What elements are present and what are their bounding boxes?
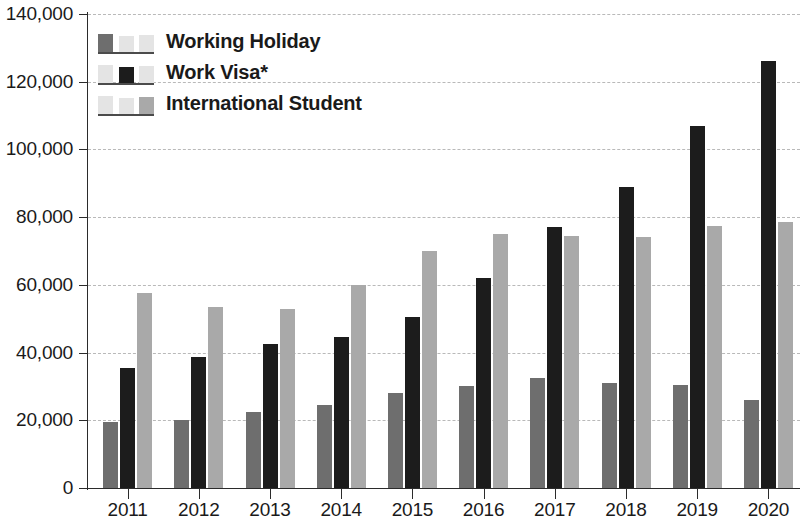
bar — [673, 385, 688, 488]
x-tick-mark — [484, 489, 485, 499]
x-tick-label: 2019 — [676, 500, 717, 519]
y-tick-mark — [79, 285, 88, 286]
bar — [422, 251, 437, 488]
legend-swatch-icon-international-student — [98, 92, 154, 116]
bar — [405, 317, 420, 488]
x-tick-mark — [697, 489, 698, 499]
legend-swatch-icon-work-visa — [98, 61, 154, 85]
legend-label-international-student: International Student — [166, 92, 362, 115]
x-tick-mark — [199, 489, 200, 499]
bar-group — [602, 14, 651, 488]
y-tick-label: 40,000 — [16, 343, 73, 362]
y-tick-mark — [79, 14, 88, 15]
y-tick-mark — [79, 353, 88, 354]
legend-item-working-holiday[interactable]: Working Holiday — [98, 26, 362, 57]
bar — [137, 293, 152, 488]
bar — [191, 357, 206, 488]
x-tick-label: 2012 — [178, 500, 219, 519]
y-tick-label: 20,000 — [16, 410, 73, 429]
bar-group — [673, 14, 722, 488]
y-tick-label: 100,000 — [6, 139, 73, 158]
bar-group — [459, 14, 508, 488]
y-tick-label: 0 — [63, 478, 73, 497]
bar-chart: 020,00040,00060,00080,000100,000120,0001… — [0, 0, 804, 526]
legend-item-international-student[interactable]: International Student — [98, 88, 362, 119]
bar — [690, 126, 705, 488]
bar — [120, 368, 135, 488]
bar — [174, 420, 189, 488]
y-tick-mark — [79, 82, 88, 83]
x-tick-mark — [270, 489, 271, 499]
bar — [493, 234, 508, 488]
x-tick-label: 2018 — [605, 500, 646, 519]
x-tick-mark — [341, 489, 342, 499]
x-tick-label: 2015 — [392, 500, 433, 519]
y-tick-label: 120,000 — [6, 72, 73, 91]
y-tick-mark — [79, 149, 88, 150]
bar — [459, 386, 474, 488]
x-tick-mark — [768, 489, 769, 499]
bar — [619, 187, 634, 488]
bar — [707, 226, 722, 488]
x-tick-mark — [555, 489, 556, 499]
bar — [547, 227, 562, 488]
bar — [388, 393, 403, 488]
x-tick-label: 2020 — [748, 500, 789, 519]
bar — [636, 237, 651, 488]
bar — [334, 337, 349, 488]
bar — [744, 400, 759, 488]
y-tick-mark — [79, 420, 88, 421]
legend-item-work-visa[interactable]: Work Visa* — [98, 57, 362, 88]
x-tick-label: 2013 — [249, 500, 290, 519]
x-tick-label: 2014 — [320, 500, 361, 519]
y-tick-mark — [79, 488, 88, 489]
bar — [761, 61, 776, 488]
y-tick-label: 60,000 — [16, 275, 73, 294]
axis-baseline — [88, 488, 800, 489]
chart-legend: Working Holiday Work Visa* International… — [98, 26, 362, 119]
x-tick-mark — [412, 489, 413, 499]
x-tick-mark — [626, 489, 627, 499]
bar — [530, 378, 545, 488]
y-tick-mark — [79, 217, 88, 218]
bar — [246, 412, 261, 488]
bar — [317, 405, 332, 488]
bar — [280, 309, 295, 488]
legend-swatch-icon-working-holiday — [98, 30, 154, 54]
bar — [208, 307, 223, 488]
bar-group — [388, 14, 437, 488]
bar — [778, 222, 793, 488]
legend-label-work-visa: Work Visa* — [166, 61, 268, 84]
bar — [564, 236, 579, 488]
x-tick-label: 2016 — [463, 500, 504, 519]
y-tick-label: 80,000 — [16, 207, 73, 226]
x-tick-label: 2017 — [534, 500, 575, 519]
y-tick-label: 140,000 — [6, 4, 73, 23]
bar-group — [530, 14, 579, 488]
bar — [103, 422, 118, 488]
bar — [351, 285, 366, 488]
legend-label-working-holiday: Working Holiday — [166, 30, 320, 53]
bar — [263, 344, 278, 488]
bar — [602, 383, 617, 488]
bar-group — [744, 14, 793, 488]
x-tick-label: 2011 — [108, 500, 148, 519]
bar — [476, 278, 491, 488]
x-tick-mark — [128, 489, 129, 499]
